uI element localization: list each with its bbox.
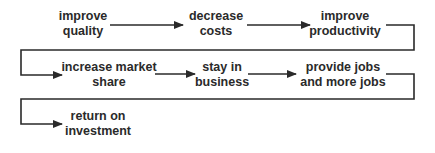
node-line: improve (59, 9, 108, 24)
node-line: business (195, 75, 249, 90)
node-decrease-costs: decrease costs (189, 9, 243, 39)
node-line: share (61, 75, 156, 90)
node-line: quality (59, 24, 108, 39)
node-line: and more jobs (300, 75, 385, 90)
node-line: improve (309, 9, 381, 24)
node-improve-quality: improve quality (59, 9, 108, 39)
node-line: stay in (195, 60, 249, 75)
node-line: costs (189, 24, 243, 39)
node-improve-productivity: improve productivity (309, 9, 381, 39)
node-line: decrease (189, 9, 243, 24)
node-line: return on (65, 109, 131, 124)
node-provide-jobs: provide jobs and more jobs (300, 60, 385, 90)
node-line: provide jobs (300, 60, 385, 75)
node-line: productivity (309, 24, 381, 39)
node-return-on-investment: return on investment (65, 109, 131, 139)
node-stay-in-business: stay in business (195, 60, 249, 90)
node-increase-market-share: increase market share (61, 60, 156, 90)
node-line: increase market (61, 60, 156, 75)
node-line: investment (65, 124, 131, 139)
